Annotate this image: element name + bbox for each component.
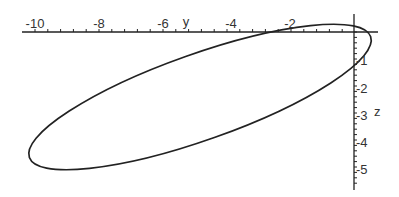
plot-area: -10 -8 -6 -4 -2 y -1 -2 -3 -4 -5 z xyxy=(0,0,399,197)
z-tick-label: -5 xyxy=(356,162,368,177)
y-tick-label: -6 xyxy=(157,16,169,31)
z-tick-label: -4 xyxy=(356,135,368,150)
y-tick-label: -8 xyxy=(93,16,105,31)
y-axis-label: y xyxy=(183,14,190,29)
z-axis-label: z xyxy=(374,104,381,119)
y-tick-label: -2 xyxy=(284,16,296,31)
chart-svg: -10 -8 -6 -4 -2 y -1 -2 -3 -4 -5 z xyxy=(0,0,399,197)
z-tick-label: -3 xyxy=(356,108,368,123)
y-tick-label: -4 xyxy=(225,16,237,31)
y-tick-label: -10 xyxy=(26,16,45,31)
z-tick-label: -1 xyxy=(356,53,368,68)
z-tick-label: -2 xyxy=(356,81,368,96)
